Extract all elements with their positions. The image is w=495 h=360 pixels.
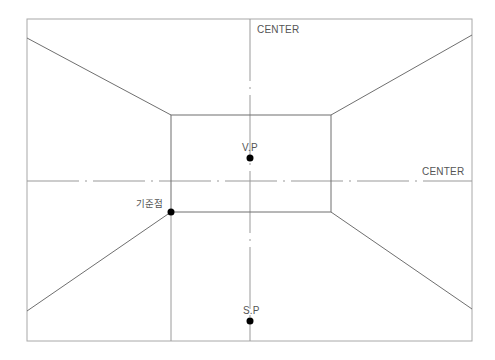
- vanishing-point-dot: [247, 155, 254, 162]
- diagonal-bottom-left: [27, 212, 171, 311]
- center-label-horizontal: CENTER: [422, 166, 464, 178]
- vanishing-point-label: V.P: [242, 142, 258, 154]
- station-point-label: S.P: [243, 305, 260, 317]
- station-point-dot: [247, 318, 254, 325]
- diagonal-top-left: [27, 38, 171, 115]
- reference-point-label: 기준점: [136, 198, 164, 210]
- diagonal-top-right: [331, 35, 472, 115]
- center-label-vertical: CENTER: [257, 24, 299, 36]
- diagonal-bottom-right: [331, 212, 472, 309]
- reference-point-dot: [168, 209, 175, 216]
- back-wall-rectangle: [171, 115, 331, 212]
